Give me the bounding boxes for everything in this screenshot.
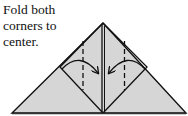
paper-triangle	[12, 23, 186, 113]
origami-diagram	[0, 0, 188, 116]
